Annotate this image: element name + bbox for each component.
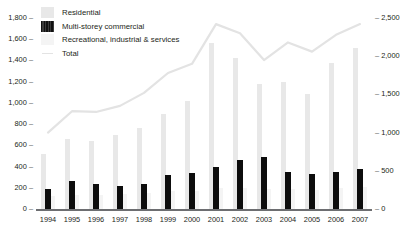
x-axis-label-2004: 2004 (276, 215, 300, 224)
x-axis-label-2006: 2006 (324, 215, 348, 224)
legend-swatch-residential-icon (41, 7, 54, 18)
bar-group (180, 18, 204, 209)
left-axis-tick-1400: 1,400 – (8, 56, 33, 64)
bar-group (252, 18, 276, 209)
x-axis-label-1996: 1996 (84, 215, 108, 224)
bar-group (324, 18, 348, 209)
chart-container: Residential Multi-storey commercial Recr… (0, 0, 408, 237)
x-axis-label-2003: 2003 (252, 215, 276, 224)
x-axis-label-2005: 2005 (300, 215, 324, 224)
bar-multistorey-commercial (165, 175, 171, 209)
right-axis-tick-1500: – 1,500 (375, 90, 400, 98)
bar-group (60, 18, 84, 209)
bar-multistorey-commercial (189, 173, 195, 209)
left-axis-tick-600: 600 – (14, 141, 33, 149)
right-axis-tick-0: – 0 (375, 205, 385, 213)
bar-multistorey-commercial (93, 184, 99, 209)
bar-multistorey-commercial (261, 157, 267, 209)
left-axis-tick-1600: 1,600 – (8, 35, 33, 43)
bar-group (156, 18, 180, 209)
bar-group (228, 18, 252, 209)
x-axis-label-2001: 2001 (204, 215, 228, 224)
bar-multistorey-commercial (117, 186, 123, 209)
left-axis-tick-200: 200 – (14, 184, 33, 192)
x-axis-label-2002: 2002 (228, 215, 252, 224)
bar-multistorey-commercial (285, 172, 291, 209)
left-axis-tick-400: 400 – (14, 163, 33, 171)
left-axis-tick-0: 0 – (23, 205, 33, 213)
bar-group (276, 18, 300, 209)
left-axis-tick-1000: 1,000 – (8, 99, 33, 107)
left-axis-tick-800: 800 – (14, 120, 33, 128)
bar-multistorey-commercial (237, 160, 243, 209)
x-axis-label-1998: 1998 (132, 215, 156, 224)
bar-multistorey-commercial (141, 184, 147, 209)
bar-multistorey-commercial (45, 189, 51, 209)
right-axis-tick-2000: – 2,000 (375, 52, 400, 60)
x-axis-label-2007: 2007 (348, 215, 372, 224)
x-axis-label-1995: 1995 (60, 215, 84, 224)
bar-group (204, 18, 228, 209)
left-axis-tick-1200: 1,200 – (8, 78, 33, 86)
left-axis-tick-1800: 1,800 – (8, 14, 33, 22)
legend-label-residential: Residential (62, 8, 101, 17)
right-axis-tick-2500: – 2,500 (375, 14, 400, 22)
bar-group (84, 18, 108, 209)
bar-group (132, 18, 156, 209)
bar-multistorey-commercial (309, 174, 315, 209)
x-axis-label-1997: 1997 (108, 215, 132, 224)
bar-group (348, 18, 372, 209)
x-axis-label-2000: 2000 (180, 215, 204, 224)
bar-multistorey-commercial (213, 167, 219, 209)
bar-group (108, 18, 132, 209)
bar-group (300, 18, 324, 209)
axis-baseline (36, 209, 372, 211)
x-axis-label-1999: 1999 (156, 215, 180, 224)
right-axis-tick-500: – 500 (375, 167, 394, 175)
plot-area (36, 18, 372, 209)
bar-multistorey-commercial (69, 181, 75, 209)
bar-group (36, 18, 60, 209)
right-axis-tick-1000: – 1,000 (375, 129, 400, 137)
bar-multistorey-commercial (357, 169, 363, 209)
x-axis-label-1994: 1994 (36, 215, 60, 224)
bar-multistorey-commercial (333, 172, 339, 209)
